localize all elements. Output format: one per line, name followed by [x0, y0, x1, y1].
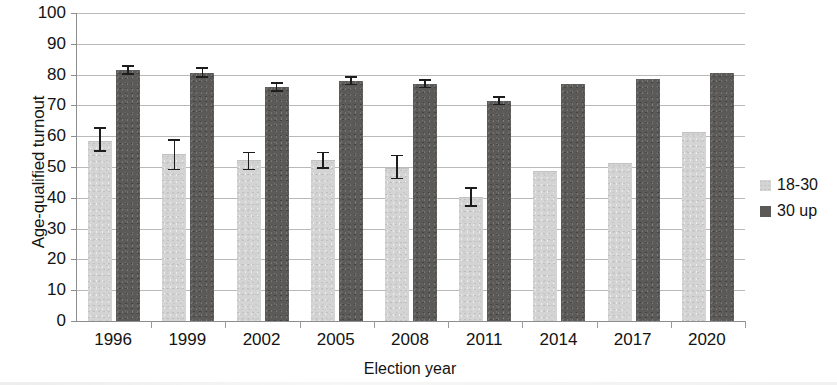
- x-tick-label-1996: 1996: [94, 330, 132, 349]
- y-tickmark-30: [71, 229, 77, 230]
- error-cap-top: [271, 82, 283, 84]
- error-cap-top: [94, 127, 106, 129]
- gridline-80: [77, 75, 745, 76]
- chart-legend: 18-30 30 up: [760, 172, 837, 224]
- y-tick-label-80: 80: [22, 66, 66, 83]
- error-cap-bottom: [465, 205, 477, 207]
- y-tick-label-60: 60: [22, 127, 66, 144]
- legend-label-30-up: 30 up: [777, 202, 817, 220]
- gridline-90: [77, 44, 745, 45]
- error-bar-1996-18-30: [99, 127, 101, 152]
- error-cap-top: [419, 79, 431, 81]
- bar-2011-18-30: [459, 197, 483, 321]
- x-tick-label-2017: 2017: [614, 330, 652, 349]
- x-tick-label-2002: 2002: [243, 330, 281, 349]
- error-bar-2008-18-30: [396, 155, 398, 180]
- y-tickmark-80: [71, 75, 77, 76]
- y-tick-label-20: 20: [22, 250, 66, 267]
- x-tick-label-2011: 2011: [466, 330, 503, 349]
- error-bar-1999-18-30: [174, 139, 176, 170]
- y-tick-label-40: 40: [22, 189, 66, 206]
- bar-2002-30-up: [265, 87, 289, 321]
- error-bar-2011-30-up: [498, 96, 500, 105]
- x-tickmark-2008: [448, 321, 449, 328]
- x-tickmark-2002: [300, 321, 301, 328]
- legend-item-30-up: 30 up: [760, 198, 837, 224]
- legend-label-18-30: 18-30: [777, 176, 818, 194]
- bar-2017-18-30: [608, 163, 632, 321]
- error-cap-bottom: [196, 76, 208, 78]
- error-cap-bottom: [168, 169, 180, 171]
- y-tickmark-90: [71, 44, 77, 45]
- bar-2014-18-30: [533, 171, 557, 321]
- x-tick-label-2008: 2008: [391, 330, 429, 349]
- error-cap-bottom: [419, 87, 431, 89]
- y-tickmark-70: [71, 105, 77, 106]
- y-tick-label-30: 30: [22, 220, 66, 237]
- y-tick-label-90: 90: [22, 35, 66, 52]
- bar-1999-18-30: [162, 154, 186, 321]
- y-tick-label-100: 100: [22, 4, 66, 21]
- error-cap-top: [243, 152, 255, 154]
- error-cap-top: [168, 139, 180, 141]
- y-tickmark-100: [71, 13, 77, 14]
- y-tick-label-70: 70: [22, 96, 66, 113]
- error-cap-bottom: [345, 84, 357, 86]
- error-cap-bottom: [243, 169, 255, 171]
- error-bar-2008-30-up: [424, 79, 426, 88]
- bar-2020-18-30: [682, 132, 706, 321]
- gridline-100: [77, 13, 745, 14]
- bar-2020-30-up: [710, 73, 734, 321]
- bar-1999-30-up: [190, 73, 214, 321]
- error-bar-2011-18-30: [470, 187, 472, 207]
- x-tickmark-2020: [745, 321, 746, 328]
- bar-1996-18-30: [88, 141, 112, 321]
- error-bar-1996-30-up: [127, 65, 129, 74]
- y-tickmark-50: [71, 167, 77, 168]
- y-axis-tick-labels: 1009080706050403020100: [22, 0, 66, 385]
- x-axis-title: Election year: [76, 360, 744, 378]
- y-tickmark-40: [71, 198, 77, 199]
- error-cap-top: [345, 76, 357, 78]
- x-tick-label-2005: 2005: [317, 330, 355, 349]
- error-cap-top: [122, 65, 134, 67]
- x-axis-tick-labels: 199619992002200520082011201420172020: [76, 330, 744, 354]
- bar-2008-30-up: [413, 84, 437, 321]
- bar-1996-30-up: [116, 70, 140, 321]
- legend-swatch-icon-30-up: [760, 206, 771, 217]
- y-tickmark-0: [71, 321, 77, 322]
- bar-2008-18-30: [385, 168, 409, 321]
- error-cap-top: [196, 67, 208, 69]
- y-tickmark-10: [71, 290, 77, 291]
- x-tickmark-2005: [374, 321, 375, 328]
- bar-chart: Age-qualified turnout 100908070605040302…: [0, 0, 837, 385]
- bar-2017-30-up: [636, 79, 660, 321]
- legend-item-18-30: 18-30: [760, 172, 837, 198]
- error-bar-2005-30-up: [350, 76, 352, 85]
- error-bar-1999-30-up: [202, 67, 204, 78]
- x-tick-label-2014: 2014: [540, 330, 578, 349]
- error-cap-top: [493, 96, 505, 98]
- x-tickmark-1996: [151, 321, 152, 328]
- error-cap-top: [391, 155, 403, 157]
- error-bar-2002-30-up: [276, 82, 278, 91]
- plot-area: [76, 13, 745, 322]
- bar-2005-30-up: [339, 81, 363, 321]
- error-cap-bottom: [94, 150, 106, 152]
- error-cap-bottom: [391, 178, 403, 180]
- error-bar-2002-18-30: [248, 152, 250, 170]
- error-cap-bottom: [122, 73, 134, 75]
- error-cap-bottom: [493, 104, 505, 106]
- error-cap-bottom: [271, 90, 283, 92]
- bar-2005-18-30: [311, 160, 335, 321]
- bar-2002-18-30: [237, 160, 261, 321]
- y-tickmark-20: [71, 259, 77, 260]
- x-tickmark-1999: [225, 321, 226, 328]
- bar-2011-30-up: [487, 101, 511, 321]
- error-cap-top: [317, 152, 329, 154]
- bar-2014-30-up: [561, 84, 585, 321]
- x-tickmark-2014: [597, 321, 598, 328]
- legend-swatch-icon-18-30: [760, 180, 771, 191]
- x-tick-label-1999: 1999: [168, 330, 206, 349]
- y-tick-label-10: 10: [22, 281, 66, 298]
